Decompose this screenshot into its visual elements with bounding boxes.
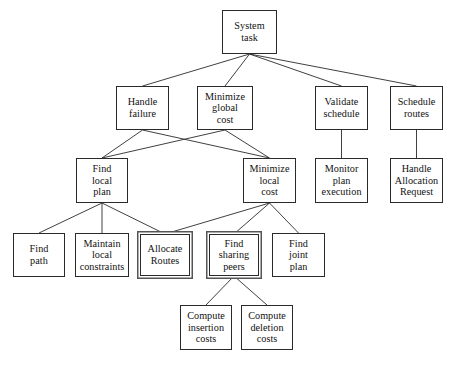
node-minimize-global[interactable]: Minimizeglobalcost	[197, 86, 253, 130]
node-find-path[interactable]: Findpath	[13, 233, 65, 277]
node-label: Computedeletioncosts	[246, 310, 288, 345]
node-allocate-routes[interactable]: AllocateRoutes	[140, 234, 190, 276]
node-handle-failure[interactable]: Handlefailure	[116, 86, 169, 130]
node-label: Minimizelocalcost	[247, 163, 291, 198]
node-label: Monitorplanexecution	[319, 163, 363, 198]
node-label: HandleAllocationRequest	[393, 163, 441, 198]
node-validate-schedule[interactable]: Validateschedule	[315, 86, 368, 130]
node-label: AllocateRoutes	[146, 243, 185, 266]
edge-find-sharing-peers-to-compute-deletion	[234, 276, 267, 305]
node-handle-allocation[interactable]: HandleAllocationRequest	[390, 158, 443, 203]
node-label: Maintainlocalconstraints	[78, 238, 127, 273]
node-label: Minimizeglobalcost	[203, 91, 247, 126]
node-maintain-local[interactable]: Maintainlocalconstraints	[75, 233, 129, 277]
node-compute-insertion[interactable]: Computeinsertioncosts	[180, 305, 232, 350]
node-compute-deletion[interactable]: Computedeletioncosts	[241, 305, 293, 350]
node-label: Findjointplan	[287, 238, 310, 273]
node-schedule-routes[interactable]: Scheduleroutes	[390, 86, 443, 130]
node-label: Systemtask	[232, 20, 266, 43]
node-label: Findpath	[28, 243, 51, 266]
edge-find-sharing-peers-to-compute-insertion	[206, 276, 234, 305]
edge-minimize-local-to-find-joint-plan	[270, 203, 299, 233]
node-system-task[interactable]: Systemtask	[222, 10, 277, 54]
node-label: Findsharingpeers	[217, 238, 251, 273]
edge-minimize-global-to-minimize-local	[225, 130, 270, 158]
edge-minimize-local-to-allocate-routes	[165, 203, 270, 234]
node-label: Handlefailure	[126, 96, 160, 119]
node-label: Scheduleroutes	[396, 96, 438, 119]
node-label: Findlocalplan	[90, 163, 114, 198]
task-decomposition-diagram: SystemtaskHandlefailureMinimizeglobalcos…	[0, 0, 453, 366]
edge-find-local-plan-to-allocate-routes	[102, 203, 165, 234]
node-minimize-local[interactable]: Minimizelocalcost	[243, 158, 296, 203]
node-monitor-plan[interactable]: Monitorplanexecution	[315, 158, 368, 203]
edge-minimize-local-to-find-sharing-peers	[234, 203, 270, 234]
edge-system-task-to-validate-schedule	[250, 54, 342, 86]
node-label: Computeinsertioncosts	[185, 310, 227, 345]
node-find-local-plan[interactable]: Findlocalplan	[76, 158, 128, 203]
edge-system-task-to-schedule-routes	[250, 54, 417, 86]
edge-find-local-plan-to-find-path	[39, 203, 102, 233]
edge-system-task-to-minimize-global	[225, 54, 250, 86]
node-find-joint-plan[interactable]: Findjointplan	[272, 233, 325, 277]
edge-system-task-to-handle-failure	[143, 54, 250, 86]
node-label: Validateschedule	[321, 96, 361, 119]
node-find-sharing-peers[interactable]: Findsharingpeers	[209, 234, 259, 276]
